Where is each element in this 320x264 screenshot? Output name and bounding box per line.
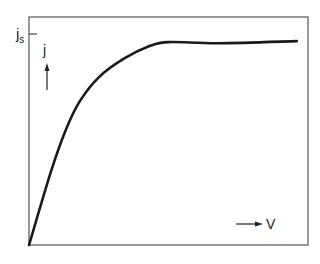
v-axis-arrow-icon (236, 222, 263, 227)
plot-frame (29, 17, 308, 245)
j-axis-arrow-icon (45, 63, 50, 90)
current-voltage-curve (29, 41, 297, 245)
y-axis-label: j (43, 42, 46, 58)
js-label: js (16, 25, 24, 45)
x-axis-label: V (266, 216, 275, 232)
